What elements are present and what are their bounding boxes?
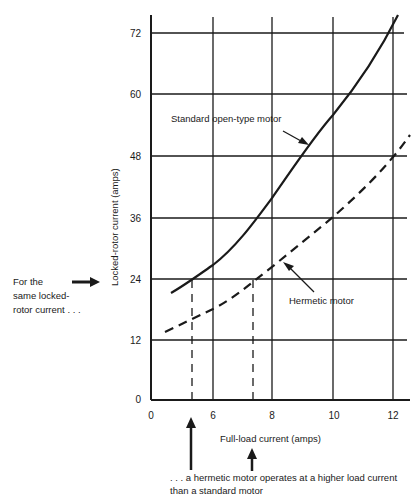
svg-text:6: 6: [210, 410, 216, 421]
svg-text:36: 36: [130, 213, 142, 224]
chart-canvas: 72 60 48 36 24 12 0 0 6 8 10 12 Locked-r…: [0, 0, 417, 500]
svg-text:0: 0: [135, 394, 141, 405]
left-note-line-2: same locked-: [13, 289, 81, 303]
grid-vertical: [213, 17, 393, 400]
bottom-note-line-1: . . . a hermetic motor operates at a hig…: [170, 471, 397, 484]
svg-text:8: 8: [269, 410, 275, 421]
svg-text:72: 72: [130, 28, 142, 39]
svg-text:24: 24: [130, 274, 142, 285]
label-standard-open-type-motor: Standard open-type motor: [171, 113, 281, 124]
arrow-to-standard-curve: [283, 131, 309, 145]
series-hermetic-motor: [165, 135, 410, 332]
svg-text:48: 48: [130, 151, 142, 162]
bottom-note: . . . a hermetic motor operates at a hig…: [170, 471, 397, 497]
series-standard-open-type-motor: [171, 15, 398, 293]
svg-text:12: 12: [130, 335, 142, 346]
arrow-to-hermetic-curve: [283, 262, 314, 292]
svg-text:12: 12: [387, 410, 399, 421]
x-axis-title: Full-load current (amps): [220, 433, 321, 444]
left-note-line-1: For the: [13, 275, 81, 289]
arrow-bottom-hermetic: [247, 448, 257, 471]
left-note-line-3: rotor current . . .: [13, 303, 81, 317]
left-note: For the same locked- rotor current . . .: [13, 275, 81, 317]
svg-text:0: 0: [148, 410, 154, 421]
svg-text:10: 10: [328, 410, 340, 421]
x-tick-labels: 0 6 8 10 12: [148, 410, 399, 421]
arrow-bottom-standard: [186, 417, 196, 470]
y-axis-title: Locked-rotor current (amps): [109, 168, 120, 286]
label-hermetic-motor: Hermetic motor: [289, 295, 354, 306]
svg-text:60: 60: [130, 89, 142, 100]
y-tick-labels: 72 60 48 36 24 12 0: [130, 28, 142, 405]
bottom-note-line-2: than a standard motor: [170, 484, 397, 497]
